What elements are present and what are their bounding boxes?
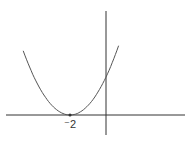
vertex-point — [69, 114, 72, 117]
vertex-x-label: ⁻2 — [64, 119, 76, 130]
parabola-plot — [0, 0, 194, 141]
parabola-curve — [23, 46, 118, 115]
